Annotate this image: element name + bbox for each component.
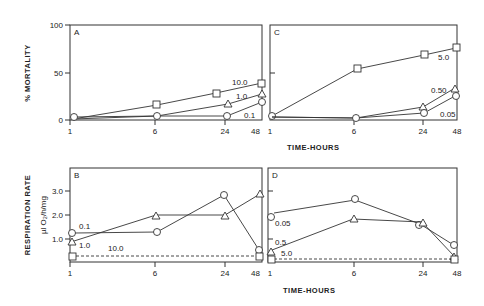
panel-a: 100 50 0 1 6 24 48 A % MORTALITY 10.0 1.… xyxy=(23,21,266,136)
series-line xyxy=(73,102,262,117)
x-tick-label: 6 xyxy=(153,127,158,136)
square-marker xyxy=(213,90,220,97)
circle-marker xyxy=(353,115,360,122)
series-label: 0.50 xyxy=(431,86,447,95)
x-tick-label: 48 xyxy=(453,269,462,278)
panel-d-frame xyxy=(268,168,457,262)
series-label: 1.0 xyxy=(236,92,248,101)
square-marker xyxy=(421,51,428,58)
series-label: 0.1 xyxy=(244,111,256,120)
x-tick-label: 24 xyxy=(221,269,230,278)
series-line xyxy=(274,200,452,244)
circle-marker xyxy=(268,214,275,221)
x-tick-label: 24 xyxy=(419,127,428,136)
x-tick-label: 24 xyxy=(221,127,230,136)
circle-marker xyxy=(154,113,161,120)
series-label: 5.0 xyxy=(281,249,293,258)
circle-marker xyxy=(224,113,231,120)
x-tick-label: 1 xyxy=(268,269,273,278)
circle-marker xyxy=(453,93,460,100)
x-tick-label: 6 xyxy=(352,127,357,136)
panel-label: C xyxy=(274,28,280,37)
circle-marker xyxy=(71,114,78,121)
circle-marker xyxy=(421,110,428,117)
series-label: 0.05 xyxy=(440,110,456,119)
triangle-marker xyxy=(258,90,266,97)
y-axis-unit: µl O₂/h/mg xyxy=(39,196,48,234)
circle-marker xyxy=(269,113,276,120)
circle-marker xyxy=(259,99,266,106)
triangle-marker xyxy=(256,190,264,197)
x-tick-label: 6 xyxy=(153,269,158,278)
y-tick-label: 2.0 xyxy=(52,211,64,220)
circle-marker xyxy=(256,247,263,254)
x-tick-label: 6 xyxy=(352,269,357,278)
series-line xyxy=(75,195,259,250)
panel-label: A xyxy=(74,28,80,37)
square-marker xyxy=(153,101,160,108)
y-tick-label: 3.0 xyxy=(52,187,64,196)
y-tick-label: 100 xyxy=(50,21,64,30)
triangle-marker xyxy=(451,85,459,92)
series-label: 1.0 xyxy=(79,241,91,250)
x-axis-title: TIME-HOURS xyxy=(283,286,336,295)
panel-a-frame xyxy=(70,25,262,120)
square-marker xyxy=(451,256,458,263)
series-label: 5.0 xyxy=(438,53,450,62)
square-marker xyxy=(453,44,460,51)
panel-b: 3.0 2.0 1.0 1 6 24 48 B RESPIRATION RATE… xyxy=(23,168,264,278)
y-axis-title: RESPIRATION RATE xyxy=(23,175,32,256)
x-tick-label: 1 xyxy=(68,127,73,136)
series-label: 0.1 xyxy=(79,222,91,231)
figure: 100 50 0 1 6 24 48 A % MORTALITY 10.0 1.… xyxy=(0,0,484,306)
x-tick-label: 1 xyxy=(68,269,73,278)
series-line xyxy=(73,94,262,119)
circle-marker xyxy=(69,230,76,237)
y-tick-label: 1.0 xyxy=(52,235,64,244)
circle-marker xyxy=(352,196,359,203)
panel-label: D xyxy=(272,171,278,180)
square-marker xyxy=(69,253,76,260)
x-tick-label: 24 xyxy=(419,269,428,278)
series-label: 0.5 xyxy=(275,238,287,247)
panel-label: B xyxy=(74,171,79,180)
square-marker xyxy=(258,80,265,87)
series-line xyxy=(272,219,454,256)
square-marker xyxy=(256,253,263,260)
x-tick-label: 48 xyxy=(251,127,260,136)
circle-marker xyxy=(451,242,458,249)
panel-c-frame xyxy=(270,25,457,120)
series-label: 0.05 xyxy=(275,219,291,228)
panel-c: 1 6 24 48 C TIME-HOURS 5.0 0.50 0.05 xyxy=(268,25,462,152)
y-tick-label: 50 xyxy=(54,69,63,78)
series-label: 10.0 xyxy=(232,78,248,87)
series-label: 10.0 xyxy=(108,244,124,253)
panel-d: 1 6 24 48 D TIME-HOURS 0.05 0.5 5.0 xyxy=(267,168,462,295)
x-tick-label: 1 xyxy=(268,127,273,136)
y-tick-label: 0 xyxy=(59,116,64,125)
circle-marker xyxy=(154,229,161,236)
x-tick-label: 48 xyxy=(251,269,260,278)
x-axis-title: TIME-HOURS xyxy=(287,143,340,152)
triangle-marker xyxy=(350,215,358,222)
square-marker xyxy=(354,65,361,72)
y-axis-title: % MORTALITY xyxy=(23,44,32,101)
series-line xyxy=(74,194,260,241)
triangle-marker xyxy=(419,103,427,110)
square-marker xyxy=(268,256,275,263)
circle-marker xyxy=(221,192,228,199)
x-tick-label: 48 xyxy=(453,127,462,136)
